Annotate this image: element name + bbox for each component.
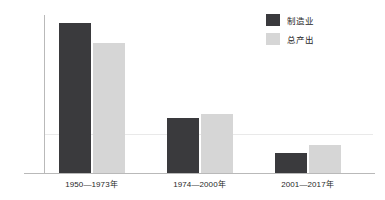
legend-swatch-icon [266, 14, 280, 26]
legend-label: 制造业 [287, 14, 315, 26]
plot-area [44, 15, 373, 173]
bar-manufacturing [275, 153, 307, 173]
legend-label: 总产出 [287, 33, 315, 45]
legend-item-manufacturing: 制造业 [266, 14, 315, 26]
x-axis-line [24, 173, 375, 174]
chart-legend: 制造业 总产出 [266, 14, 315, 45]
bar-total-output [309, 145, 341, 173]
bar-total-output [93, 43, 125, 173]
x-tick-label: 1974—2000年 [150, 178, 250, 189]
legend-swatch-icon [266, 33, 280, 45]
bar-manufacturing [167, 118, 199, 173]
bar-manufacturing [59, 23, 91, 173]
x-tick-label: 2001—2017年 [258, 178, 358, 189]
y-axis-label-wrap: 年均增长率 (%) [18, 17, 38, 175]
bar-total-output [201, 114, 233, 173]
bar-chart-figure: 年均增长率 (%) 1950—1973年1974—2000年2001—2017年… [0, 0, 385, 200]
x-tick-label: 1950—1973年 [42, 178, 142, 189]
legend-item-total-output: 总产出 [266, 33, 315, 45]
